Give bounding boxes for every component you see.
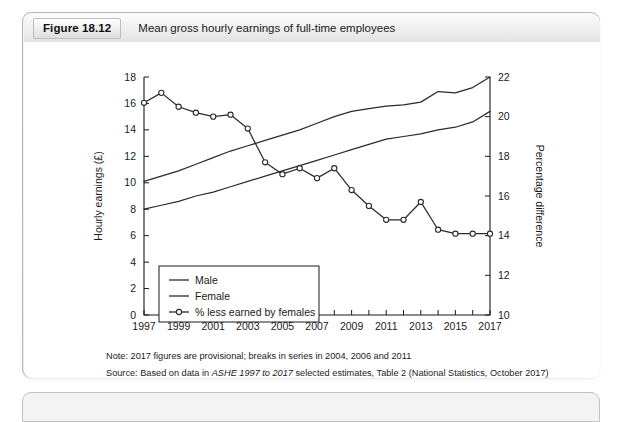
- y2-tick-label: 16: [498, 190, 510, 202]
- y-tick-label: 14: [124, 123, 136, 135]
- series-line-0: [144, 77, 490, 181]
- series-marker: [487, 231, 492, 236]
- note-text: 2017 figures are provisional; breaks in …: [131, 351, 412, 361]
- y-tick-label: 0: [130, 309, 136, 321]
- x-tick-label: 2009: [340, 320, 364, 332]
- legend-marker: [176, 309, 181, 314]
- y-tick-label: 10: [124, 176, 136, 188]
- series-marker: [384, 217, 389, 222]
- series-marker: [332, 166, 337, 171]
- source-pre-text: Based on data in: [140, 368, 212, 378]
- series-marker: [193, 110, 198, 115]
- series-marker: [211, 114, 216, 119]
- y2-tick-label: 22: [498, 71, 510, 83]
- series-marker: [228, 112, 233, 117]
- y2-tick-label: 10: [498, 309, 510, 321]
- series-marker: [453, 231, 458, 236]
- x-tick-label: 2011: [375, 320, 398, 332]
- figure-number-badge: Figure 18.12: [33, 18, 121, 39]
- source-line: Source: Based on data in ASHE 1997 to 20…: [106, 365, 576, 382]
- y2-tick-label: 12: [498, 269, 510, 281]
- legend-label: % less earned by females: [195, 306, 315, 318]
- series-marker: [176, 104, 181, 109]
- source-post-text: selected estimates, Table 2 (National St…: [293, 368, 549, 378]
- chart-card: 024681012141618Hourly earnings (£)101214…: [24, 42, 600, 378]
- y-tick-label: 18: [124, 71, 136, 83]
- series-marker: [297, 166, 302, 171]
- series-marker: [141, 100, 146, 105]
- y2-axis-title: Percentage difference: [534, 145, 546, 248]
- series-marker: [436, 227, 441, 232]
- y-tick-label: 8: [130, 203, 136, 215]
- x-tick-label: 1997: [132, 320, 156, 332]
- series-marker: [280, 172, 285, 177]
- legend-label: Male: [195, 274, 218, 286]
- series-marker: [314, 176, 319, 181]
- series-marker: [418, 199, 423, 204]
- figure-panel: Figure 18.12 Mean gross hourly earnings …: [22, 12, 600, 378]
- y2-tick-label: 20: [498, 110, 510, 122]
- figure-title: Mean gross hourly earnings of full-time …: [138, 22, 395, 34]
- x-tick-label: 2013: [409, 320, 433, 332]
- y-tick-label: 4: [130, 256, 136, 268]
- y-tick-label: 16: [124, 97, 136, 109]
- series-line-1: [144, 111, 490, 209]
- series-marker: [245, 126, 250, 131]
- y-axis-title: Hourly earnings (£): [92, 151, 104, 240]
- series-marker: [159, 90, 164, 95]
- next-figure-panel: [22, 392, 600, 422]
- series-marker: [263, 160, 268, 165]
- line-chart: 024681012141618Hourly earnings (£)101214…: [24, 42, 600, 378]
- y2-tick-label: 18: [498, 150, 510, 162]
- x-tick-label: 2015: [444, 320, 468, 332]
- note-line: Note: 2017 figures are provisional; brea…: [106, 348, 576, 365]
- note-prefix: Note:: [106, 351, 131, 361]
- series-marker: [349, 187, 354, 192]
- series-marker: [401, 217, 406, 222]
- y-tick-label: 6: [130, 229, 136, 241]
- y2-tick-label: 14: [498, 229, 510, 241]
- source-prefix: Source:: [106, 368, 140, 378]
- legend-label: Female: [195, 290, 230, 302]
- x-tick-label: 2017: [478, 320, 502, 332]
- y-tick-label: 2: [130, 282, 136, 294]
- series-marker: [470, 231, 475, 236]
- figure-caption-bar: Figure 18.12 Mean gross hourly earnings …: [24, 14, 600, 43]
- source-publication: ASHE 1997 to 2017: [212, 368, 293, 378]
- figure-notes: Note: 2017 figures are provisional; brea…: [106, 348, 576, 382]
- series-marker: [366, 203, 371, 208]
- y-tick-label: 12: [124, 150, 136, 162]
